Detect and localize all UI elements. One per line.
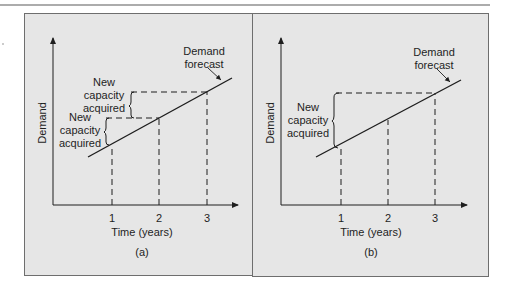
x-tick-1: 1: [109, 212, 115, 224]
annotation-lower-line2: capacity: [60, 124, 101, 136]
annotation-upper-line1: New: [93, 76, 115, 88]
panel-caption: (b): [364, 246, 377, 258]
panel-a: Demand forecast New capacity acquired Ne…: [25, 14, 257, 276]
x-tick-3: 3: [432, 212, 438, 224]
line-label-line1: Demand: [413, 46, 455, 58]
panel-caption: (a): [135, 246, 148, 258]
y-axis-label: Demand: [36, 102, 48, 144]
figure-canvas: Demand forecast New capacity acquired Ne…: [0, 0, 511, 295]
line-label-line2: forecast: [414, 59, 453, 71]
x-tick-2: 2: [385, 212, 391, 224]
annotation-line1: New: [297, 101, 319, 113]
line-label-line1: Demand: [183, 45, 225, 57]
annotation-line3: acquired: [287, 127, 329, 139]
x-tick-1: 1: [338, 212, 344, 224]
annotation-line2: capacity: [288, 114, 329, 126]
annotation-lower-line1: New: [69, 111, 91, 123]
annotation-upper-line2: capacity: [84, 89, 125, 101]
y-axis-label: Demand: [264, 102, 276, 144]
x-axis-label: Time (years): [111, 226, 172, 238]
x-tick-3: 3: [204, 212, 210, 224]
x-tick-2: 2: [156, 212, 162, 224]
x-axis-label: Time (years): [340, 226, 401, 238]
line-label-line2: forecast: [184, 58, 223, 70]
panel-b: Demand forecast New capacity acquired De…: [253, 14, 489, 277]
annotation-lower-line3: acquired: [59, 137, 101, 149]
